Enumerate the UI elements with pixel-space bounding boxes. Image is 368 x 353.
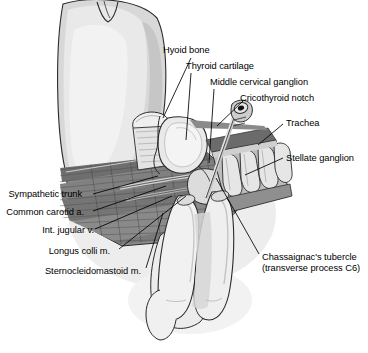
label-chassaignacs-tubercle: Chassaignac's tubercle xyxy=(262,252,357,263)
label-int-jugular-v: Int. jugular v. xyxy=(0,225,94,236)
label-longus-colli-m: Longus colli m. xyxy=(0,246,110,257)
label-thyroid-cartilage: Thyroid cartilage xyxy=(186,61,254,72)
label-common-carotid-a: Common carotid a. xyxy=(0,207,84,218)
anatomy-figure: Hyoid boneThyroid cartilageMiddle cervic… xyxy=(0,0,368,353)
label-sternocleidomastoid-m: Sternocleidomastoid m. xyxy=(0,266,141,277)
label-trachea: Trachea xyxy=(286,118,319,129)
label-stellate-ganglion: Stellate ganglion xyxy=(286,153,354,164)
label-cricothyroid-notch: Cricothyroid notch xyxy=(240,93,314,104)
label-hyoid-bone: Hyoid bone xyxy=(163,45,210,56)
label-middle-cervical-ganglion: Middle cervical ganglion xyxy=(210,77,308,88)
label-chassaignacs-tubercle-sub: (transverse process C6) xyxy=(262,263,360,274)
label-sympathetic-trunk: Sympathetic trunk xyxy=(0,189,82,200)
